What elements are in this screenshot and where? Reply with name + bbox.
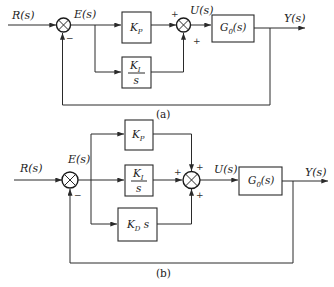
error-label-b: E(s): [67, 153, 90, 166]
kd-to-sum-arrow-b: [157, 189, 192, 224]
plus-sign-b: +: [196, 190, 204, 200]
plus-sign-a: +: [193, 36, 201, 46]
plant-block-b: G0(s): [239, 167, 282, 195]
plant-block-a: G0(s): [212, 15, 254, 42]
svg-text:s: s: [134, 74, 140, 86]
minus-sign-a: −: [66, 33, 74, 43]
control-label-a: U(s): [190, 4, 214, 17]
kp-to-sum-arrow-b: [153, 134, 192, 171]
output-label-b: Y(s): [305, 166, 327, 179]
summing-junction-icon: [57, 18, 71, 32]
input-label-b: R(s): [19, 162, 43, 175]
kp-block-b: KP: [125, 120, 153, 150]
output-label-a: Y(s): [284, 12, 306, 25]
minus-sign-b: −: [74, 190, 82, 200]
plus-sign-a: +: [171, 9, 179, 19]
diagram-a: R(s) − E(s) KP KI s: [8, 4, 306, 120]
ki-block-b: KI s: [125, 165, 153, 196]
diagram-b: R(s) − E(s) KP KI s KD s: [14, 120, 328, 279]
kd-block-b: KD s: [118, 208, 157, 241]
error-label-a: E(s): [73, 8, 96, 21]
error-to-kp-arrow-b: [91, 134, 124, 180]
plus-sign-b: +: [196, 162, 204, 172]
error-to-ki-arrow-a: [95, 25, 121, 72]
svg-text:s: s: [136, 182, 142, 194]
kp-block-a: KP: [122, 12, 151, 43]
ki-block-a: KI s: [122, 57, 151, 88]
caption-a: (a): [156, 108, 170, 120]
error-to-kd-arrow-b: [91, 180, 117, 224]
caption-b: (b): [156, 267, 171, 279]
summing-junction-icon: [183, 172, 200, 189]
control-label-b: U(s): [214, 163, 238, 176]
ki-to-sum-arrow-a: [151, 33, 184, 72]
summing-junction-icon: [177, 18, 191, 32]
block-diagram-canvas: R(s) − E(s) KP KI s: [0, 0, 334, 287]
plus-sign-b: +: [174, 167, 182, 177]
summing-junction-icon: [62, 172, 78, 188]
input-label-a: R(s): [11, 9, 35, 22]
